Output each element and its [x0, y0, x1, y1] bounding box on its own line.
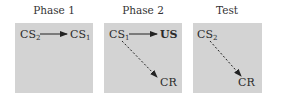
arrow-cs2-to-cr-dashed	[210, 41, 241, 76]
arrow-cs1-to-cr-dashed	[122, 41, 157, 77]
arrows-layer	[0, 0, 281, 100]
